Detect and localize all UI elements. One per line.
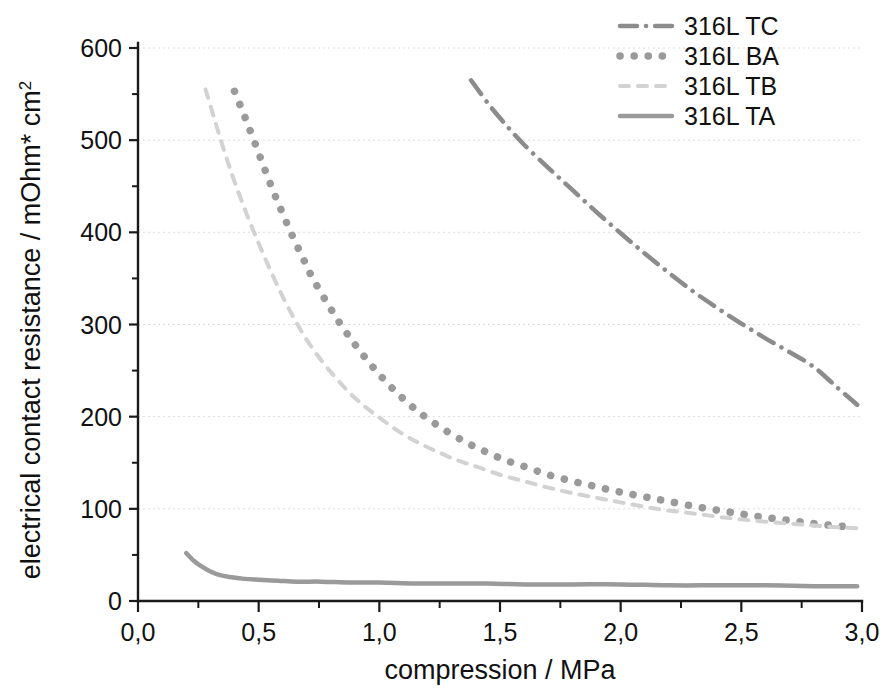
y-axis-title: electrical contact resistance / mOhm* cm… (16, 81, 46, 580)
series-line-316l-tc (471, 80, 857, 404)
series-line-316l-ta (186, 553, 857, 586)
svg-text:electrical contact resistance: electrical contact resistance / mOhm* cm… (16, 81, 46, 580)
x-tick-label-1,0: 1,0 (362, 618, 397, 646)
y-tick-label-200: 200 (80, 403, 122, 431)
legend-label-316l-tb: 316L TB (684, 72, 777, 100)
y-tick-label-0: 0 (108, 587, 122, 615)
y-tick-label-500: 500 (80, 126, 122, 154)
legend: 316L TC316L BA316L TB316L TA (620, 12, 779, 130)
x-tick-label-0,5: 0,5 (241, 618, 276, 646)
legend-label-316l-ba: 316L BA (684, 42, 779, 70)
x-tick-label-1,5: 1,5 (483, 618, 518, 646)
data-series-group (186, 80, 857, 586)
legend-label-316l-tc: 316L TC (684, 12, 779, 40)
x-tick-label-3,0: 3,0 (845, 618, 880, 646)
series-line-316l-tb (206, 89, 858, 528)
x-tick-label-2,5: 2,5 (724, 618, 759, 646)
y-tick-label-300: 300 (80, 311, 122, 339)
y-tick-label-100: 100 (80, 495, 122, 523)
chart-figure: 01002003004005006000,00,51,01,52,02,53,0… (0, 0, 884, 697)
y-tick-label-600: 600 (80, 34, 122, 62)
legend-label-316l-ta: 316L TA (684, 102, 776, 130)
chart-canvas: 01002003004005006000,00,51,01,52,02,53,0… (0, 0, 884, 697)
series-line-316l-ba (235, 91, 843, 526)
x-axis-title: compression / MPa (384, 655, 616, 685)
y-tick-label-400: 400 (80, 218, 122, 246)
x-tick-label-0,0: 0,0 (121, 618, 156, 646)
x-tick-label-2,0: 2,0 (603, 618, 638, 646)
